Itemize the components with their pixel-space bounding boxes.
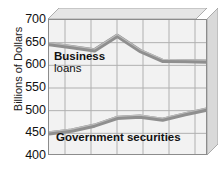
- y-tick-label-600: 600: [10, 58, 46, 70]
- y-tick-label-500: 500: [10, 104, 46, 116]
- y-tick-label-700: 700: [10, 13, 46, 25]
- series-label-business-loans-line1: Business: [54, 50, 105, 62]
- y-tick-label-550: 550: [10, 81, 46, 93]
- y-tick-label-650: 650: [10, 36, 46, 48]
- series-label-government-securities: Government securities: [56, 131, 181, 143]
- chart-3d-box: Business loans Government securities: [48, 19, 207, 155]
- series-label-business-loans: Business loans: [54, 50, 105, 74]
- chart-figure: Billions of Dollars 700 650 600 550 500 …: [0, 0, 222, 170]
- y-tick-label-450: 450: [10, 126, 46, 138]
- y-tick-label-400: 400: [10, 149, 46, 161]
- chart-box-right-bevel: [207, 8, 218, 155]
- y-axis-tick-labels: 700 650 600 550 500 450 400: [10, 0, 46, 170]
- chart-box-top-bevel: [48, 8, 207, 19]
- plot-area: Business loans Government securities: [48, 19, 207, 155]
- series-label-business-loans-line2: loans: [54, 62, 105, 74]
